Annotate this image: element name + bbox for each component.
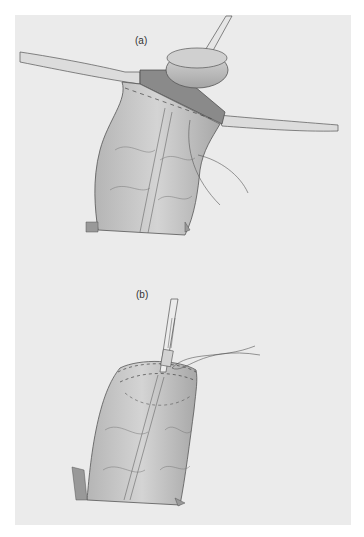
surgical-illustration bbox=[0, 0, 364, 537]
panel-b-drawing bbox=[72, 299, 260, 506]
panel-a-drawing bbox=[20, 16, 338, 235]
